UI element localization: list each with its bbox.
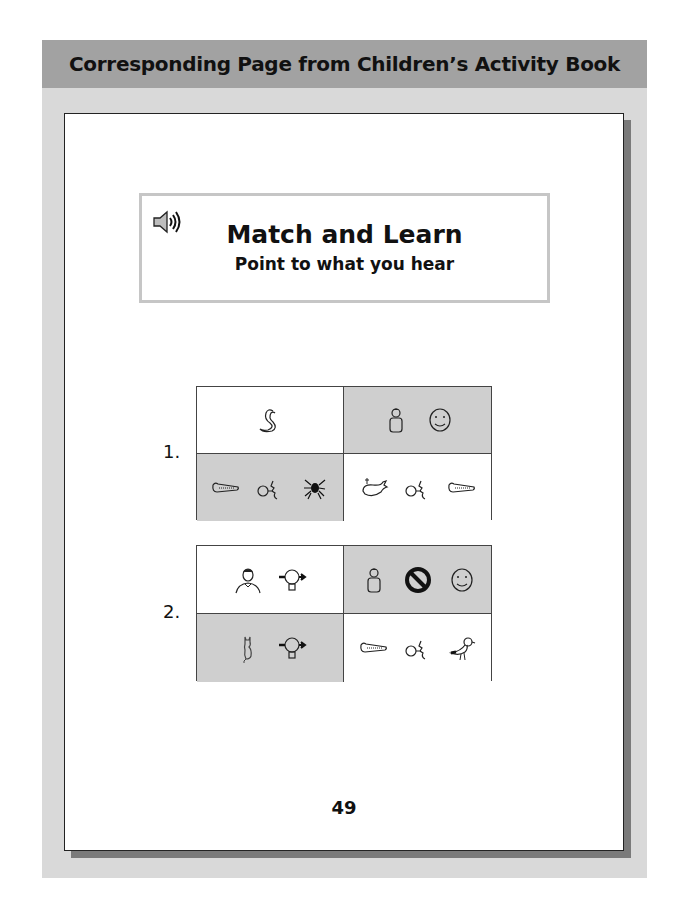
choice-cell[interactable]: [344, 546, 491, 614]
choice-cell[interactable]: [344, 454, 491, 521]
match-grid-1: [196, 386, 492, 520]
mouth-sound-icon: [255, 473, 285, 503]
choice-cell[interactable]: [197, 546, 344, 614]
cat-icon: [233, 633, 263, 663]
mouth-sound-icon: [403, 473, 433, 503]
lightbulb-idea-icon: [277, 565, 307, 595]
item-number: 1.: [163, 441, 180, 462]
activity-book-page: Match and Learn Point to what you hear 1…: [64, 113, 624, 851]
item-number: 2.: [163, 601, 180, 622]
whale-icon: [359, 473, 389, 503]
figure-panel: Corresponding Page from Children’s Activ…: [42, 40, 647, 878]
snake-icon: [255, 405, 285, 435]
activity-title-box: Match and Learn Point to what you hear: [139, 193, 550, 303]
mouth-sound-icon: [403, 633, 433, 663]
lightbulb-idea-icon: [277, 633, 307, 663]
panel-header: Corresponding Page from Children’s Activ…: [42, 40, 647, 88]
boy-icon: [359, 565, 389, 595]
boy-icon: [381, 405, 411, 435]
crocodile-icon: [447, 473, 477, 503]
page-number: 49: [65, 797, 623, 818]
choice-cell[interactable]: [197, 387, 344, 454]
choice-cell[interactable]: [197, 454, 344, 521]
choice-cell[interactable]: [344, 387, 491, 454]
activity-subtitle: Point to what you hear: [142, 254, 547, 274]
smiling-face-icon: [425, 405, 455, 435]
choice-cell[interactable]: [344, 614, 491, 682]
bird-icon: [447, 633, 477, 663]
activity-title: Match and Learn: [142, 220, 547, 249]
panel-title: Corresponding Page from Children’s Activ…: [69, 52, 620, 76]
crocodile-icon: [359, 633, 389, 663]
match-grid-2: [196, 545, 492, 681]
choice-cell[interactable]: [197, 614, 344, 682]
smiling-face-icon: [447, 565, 477, 595]
crocodile-icon: [211, 473, 241, 503]
spider-icon: [299, 473, 329, 503]
no-sign-icon: [403, 565, 433, 595]
man-icon: [233, 565, 263, 595]
